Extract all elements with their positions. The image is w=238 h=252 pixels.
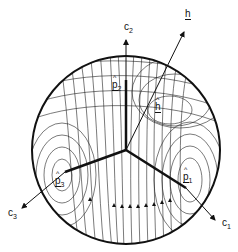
label-c2: c2 — [124, 22, 133, 34]
label-p3: p3 — [55, 176, 64, 188]
label-c3: c3 — [8, 208, 17, 220]
vector-p1 — [126, 150, 186, 188]
label-p1: p1 — [183, 172, 192, 184]
label-h-hat: h — [155, 102, 161, 113]
label-p2: p2 — [112, 80, 121, 92]
label-h: h — [185, 9, 191, 19]
sphere-diagram — [0, 0, 238, 252]
label-c1: c1 — [222, 218, 231, 230]
